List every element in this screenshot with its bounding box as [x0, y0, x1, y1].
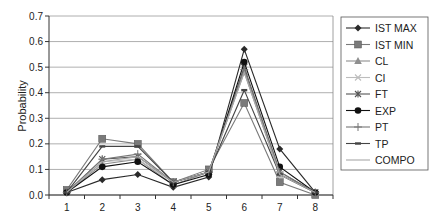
- axes: [45, 16, 333, 199]
- grid-lines: [49, 16, 333, 195]
- dash-marker-icon: [135, 145, 141, 147]
- legend-label: PT: [375, 121, 389, 133]
- y-tick-label: 0.7: [29, 11, 43, 22]
- x-tick-labels: 12345678: [64, 202, 319, 213]
- legend-label: EXP: [375, 105, 396, 117]
- legend-label: FT: [375, 88, 388, 100]
- y-tick-label: 0.5: [29, 62, 43, 73]
- legend-label: COMPO: [375, 154, 415, 166]
- y-tick-label: 0.6: [29, 36, 43, 47]
- x-tick-label: 6: [241, 202, 247, 213]
- circle-marker-icon: [134, 158, 141, 165]
- legend-label: CI: [375, 72, 386, 84]
- square-marker-icon: [355, 41, 362, 48]
- x-tick-label: 1: [64, 202, 70, 213]
- x-tick-label: 4: [170, 202, 176, 213]
- diamond-marker-icon: [134, 171, 141, 178]
- diamond-marker-icon: [241, 46, 248, 53]
- y-tick-label: 0.0: [29, 190, 43, 201]
- y-tick-label: 0.1: [29, 164, 43, 175]
- legend-label: CL: [375, 55, 389, 67]
- dash-marker-icon: [241, 89, 247, 91]
- x-tick-label: 2: [99, 202, 105, 213]
- y-tick-labels: 0.00.10.20.30.40.50.60.7: [29, 11, 43, 201]
- y-tick-label: 0.2: [29, 138, 43, 149]
- data-series: [63, 46, 320, 199]
- legend-label: TP: [375, 138, 388, 150]
- x-tick-label: 8: [312, 202, 318, 213]
- line-chart: Probability 0.00.10.20.30.40.50.60.7 123…: [0, 0, 432, 222]
- square-marker-icon: [276, 179, 283, 186]
- dash-marker-icon: [355, 142, 361, 144]
- x-tick-label: 5: [206, 202, 212, 213]
- y-tick-label: 0.4: [29, 87, 43, 98]
- legend: IST MAXIST MINCLCIFTEXPPTTPCOMPO: [341, 17, 428, 170]
- square-marker-icon: [99, 135, 106, 142]
- legend-label: IST MIN: [375, 39, 413, 51]
- x-tick-label: 7: [277, 202, 283, 213]
- circle-marker-icon: [355, 107, 362, 114]
- square-marker-icon: [241, 99, 248, 106]
- y-axis-label: Probability: [16, 80, 28, 132]
- x-tick-label: 3: [135, 202, 141, 213]
- circle-marker-icon: [241, 59, 248, 66]
- legend-label: IST MAX: [375, 22, 417, 34]
- y-tick-label: 0.3: [29, 113, 43, 124]
- circle-marker-icon: [99, 164, 106, 171]
- dash-marker-icon: [99, 145, 105, 147]
- diamond-marker-icon: [99, 176, 106, 183]
